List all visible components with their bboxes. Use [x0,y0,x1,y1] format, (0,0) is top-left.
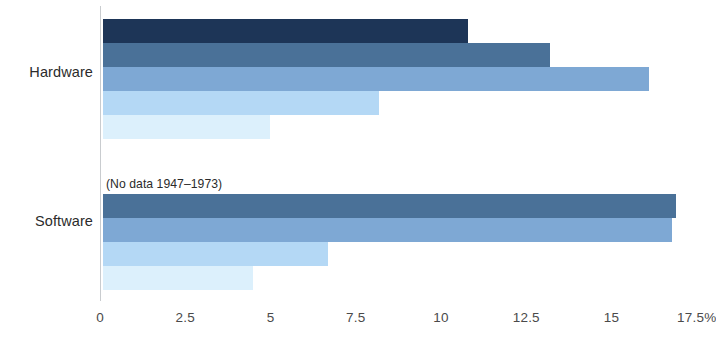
xtick-label-4: 10 [433,310,448,325]
y-axis-line [100,6,101,301]
bar-software-1 [103,194,676,218]
bar-hardware-1 [103,19,468,43]
category-label-hardware: Hardware [29,64,93,80]
xtick-label-3: 7.5 [346,310,365,325]
xtick-label-7: 17.5% [677,310,716,325]
xtick-label-0: 0 [96,310,104,325]
xtick-label-2: 5 [267,310,275,325]
bar-hardware-3 [103,67,649,91]
bar-software-2 [103,218,672,242]
category-label-software: Software [35,213,93,229]
software-no-data-annotation: (No data 1947–1973) [106,177,222,191]
xtick-label-1: 2.5 [176,310,195,325]
bar-hardware-2 [103,43,550,67]
bar-hardware-5 [103,115,270,139]
xtick-label-5: 12.5 [513,310,540,325]
xtick-label-6: 15 [604,310,619,325]
bar-software-3 [103,242,328,266]
bar-software-4 [103,266,253,290]
bar-hardware-4 [103,91,379,115]
